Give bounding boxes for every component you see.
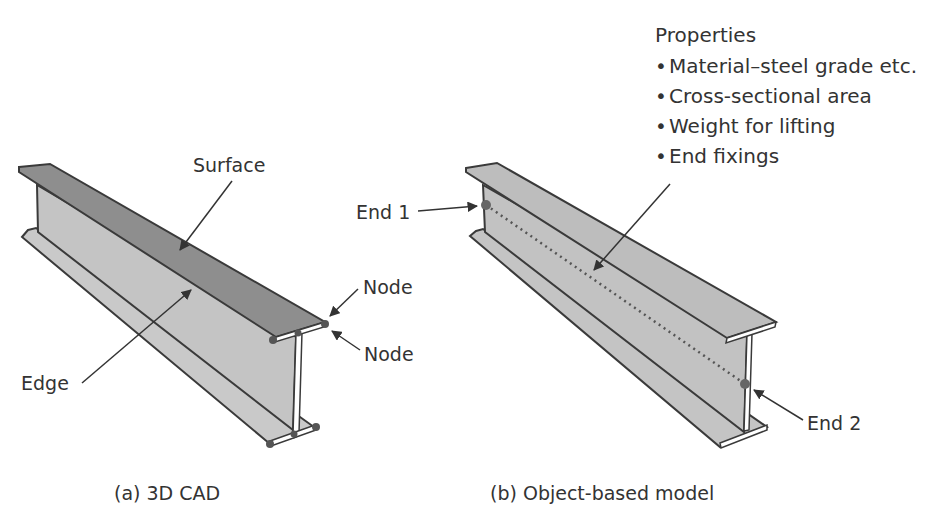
end1-leader-arrow: [418, 206, 477, 211]
node-dot: [312, 423, 320, 431]
node-bottom-leader-arrow: [332, 331, 360, 350]
beam-object-model: [466, 163, 776, 448]
end2-leader-arrow: [754, 390, 803, 420]
bullet: •: [655, 114, 667, 138]
label-surface: Surface: [193, 154, 265, 176]
bullet: •: [655, 54, 667, 78]
properties-title: Properties: [655, 23, 756, 47]
property-item: Weight for lifting: [669, 114, 835, 138]
property-item: End fixings: [669, 144, 779, 168]
bullet: •: [655, 144, 667, 168]
label-node-bottom: Node: [364, 343, 414, 365]
label-end1: End 1: [356, 201, 410, 223]
node-top-leader-arrow: [330, 289, 358, 316]
surface-leader-arrow: [180, 181, 232, 250]
node-dot: [291, 431, 298, 438]
node-dot: [321, 320, 329, 328]
figure-canvas: Surface Edge Node Node End 1 End 2 Prope…: [0, 0, 943, 518]
end1-dot: [481, 200, 491, 210]
end2-dot: [740, 379, 750, 389]
node-dot: [295, 330, 302, 337]
label-end2: End 2: [807, 412, 861, 434]
properties-list: Properties • Material–steel grade etc. •…: [655, 23, 917, 168]
label-edge: Edge: [21, 372, 69, 394]
property-item: Material–steel grade etc.: [669, 54, 917, 78]
caption-b: (b) Object-based model: [490, 482, 714, 504]
bullet: •: [655, 84, 667, 108]
label-node-top: Node: [363, 276, 413, 298]
caption-a: (a) 3D CAD: [114, 482, 220, 504]
beam-3d-cad: [19, 164, 329, 448]
node-dot: [269, 336, 277, 344]
property-item: Cross-sectional area: [669, 84, 872, 108]
node-dot: [266, 440, 274, 448]
